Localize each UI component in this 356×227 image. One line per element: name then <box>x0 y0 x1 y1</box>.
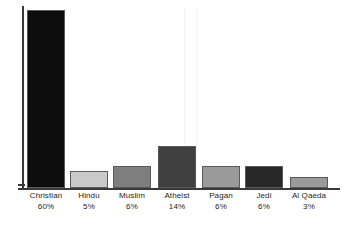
bar-al-qaeda <box>290 177 328 188</box>
category-value: 5% <box>65 202 113 213</box>
category-value: 3% <box>285 202 333 213</box>
category-label-pagan: Pagan6% <box>197 191 245 212</box>
category-value: 6% <box>240 202 288 213</box>
bar-muslim <box>113 166 151 188</box>
category-name: Pagan <box>197 191 245 202</box>
category-name: Al Qaeda <box>285 191 333 202</box>
category-name: Atheist <box>153 191 201 202</box>
category-label-muslim: Muslim6% <box>108 191 156 212</box>
category-label-christian: Christian60% <box>22 191 70 212</box>
category-name: Muslim <box>108 191 156 202</box>
category-label-al-qaeda: Al Qaeda3% <box>285 191 333 212</box>
category-label-hindu: Hindu5% <box>65 191 113 212</box>
category-value: 14% <box>153 202 201 213</box>
category-name: Hindu <box>65 191 113 202</box>
bar-atheist <box>158 146 196 188</box>
category-name: Jedi <box>240 191 288 202</box>
category-label-atheist: Atheist14% <box>153 191 201 212</box>
category-value: 6% <box>108 202 156 213</box>
bar-christian <box>27 10 65 188</box>
bar-hindu <box>70 171 108 188</box>
bar-chart-figure: Christian60%Hindu5%Muslim6%Atheist14%Pag… <box>0 0 356 227</box>
bar-pagan <box>202 166 240 188</box>
category-value: 60% <box>22 202 70 213</box>
bar-jedi <box>245 166 283 188</box>
bars-layer <box>0 0 356 189</box>
category-value: 6% <box>197 202 245 213</box>
category-labels-row: Christian60%Hindu5%Muslim6%Atheist14%Pag… <box>0 191 356 225</box>
category-label-jedi: Jedi6% <box>240 191 288 212</box>
category-name: Christian <box>22 191 70 202</box>
plot-area <box>0 0 356 189</box>
